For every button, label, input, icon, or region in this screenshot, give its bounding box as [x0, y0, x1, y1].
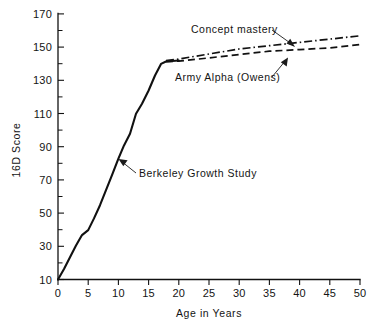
annotation-label-berkeley: Berkeley Growth Study: [139, 167, 257, 179]
x-tick-label-25: 25: [203, 287, 216, 299]
y-tick-label-50: 50: [39, 207, 52, 219]
y-tick-label-130: 130: [33, 74, 52, 86]
y-tick-label-170: 170: [33, 8, 52, 20]
axes-group: [58, 14, 360, 280]
y-tick-label-150: 150: [33, 41, 52, 53]
x-tick-label-35: 35: [263, 287, 276, 299]
x-tick-label-5: 5: [85, 287, 91, 299]
y-tick-label-10: 10: [39, 274, 52, 286]
annotation-label-concept-mastery: Concept mastery: [191, 23, 278, 35]
annotation-label-army-alpha: Army Alpha (Owens): [175, 71, 280, 83]
x-tick-label-40: 40: [293, 287, 306, 299]
x-tick-label-30: 30: [233, 287, 246, 299]
chart-figure: 10 30 50 70 90 110 130 150 170 0: [0, 0, 380, 328]
y-tick-label-70: 70: [39, 174, 52, 186]
annotation-army-alpha: Army Alpha (Owens): [175, 58, 288, 84]
chart-svg: 10 30 50 70 90 110 130 150 170 0: [0, 0, 380, 328]
x-axis-title: Age in Years: [176, 307, 242, 319]
x-tick-label-0: 0: [55, 287, 61, 299]
x-tick-label-10: 10: [112, 287, 125, 299]
x-axis-ticks: [58, 280, 360, 286]
annotation-concept-mastery: Concept mastery: [191, 23, 295, 47]
x-tick-label-50: 50: [354, 287, 367, 299]
y-tick-label-30: 30: [39, 240, 52, 252]
x-axis-tick-labels: 0 5 10 15 20 25 30 35 40 45 50: [55, 287, 366, 299]
x-tick-label-15: 15: [142, 287, 155, 299]
y-axis-tick-labels: 10 30 50 70 90 110 130 150 170: [33, 8, 52, 286]
y-axis-ticks: [58, 14, 64, 280]
x-tick-label-20: 20: [172, 287, 185, 299]
annotation-berkeley: Berkeley Growth Study: [119, 159, 258, 179]
x-tick-label-45: 45: [323, 287, 336, 299]
y-tick-label-90: 90: [39, 141, 52, 153]
y-axis-title: 16D Score: [10, 122, 22, 177]
y-tick-label-110: 110: [34, 108, 52, 120]
